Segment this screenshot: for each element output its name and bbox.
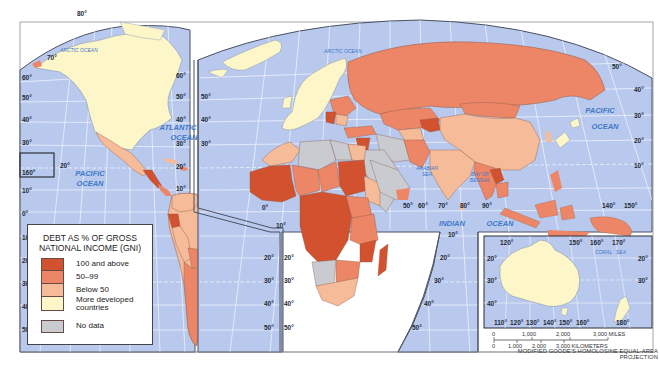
svg-text:40°: 40°: [176, 116, 186, 123]
legend-item-100-above: 100 and above: [41, 258, 129, 271]
svg-text:160°: 160°: [576, 319, 590, 326]
svg-text:90°: 90°: [482, 202, 492, 209]
australia-inset: [484, 236, 652, 328]
svg-text:20°: 20°: [60, 162, 70, 169]
ocean-label: OCEAN: [76, 179, 104, 188]
svg-text:20°: 20°: [440, 254, 450, 261]
svg-text:150°: 150°: [624, 202, 638, 209]
svg-text:INDIAN: INDIAN: [439, 219, 465, 228]
svg-text:20°: 20°: [284, 254, 294, 261]
svg-text:40°: 40°: [634, 86, 644, 93]
svg-text:PACIFIC: PACIFIC: [585, 106, 615, 115]
svg-text:30°: 30°: [22, 139, 32, 146]
svg-text:10°: 10°: [448, 231, 458, 238]
svg-text:40°: 40°: [487, 300, 497, 307]
svg-text:20°: 20°: [638, 255, 648, 262]
legend-item-more-developed: More developedcountries: [41, 297, 133, 311]
svg-text:20°: 20°: [634, 137, 644, 144]
svg-text:30°: 30°: [264, 277, 274, 284]
svg-text:50°: 50°: [403, 202, 413, 209]
svg-text:10°: 10°: [276, 222, 286, 229]
svg-text:120°: 120°: [510, 319, 524, 326]
svg-text:40°: 40°: [284, 300, 294, 307]
svg-text:50°: 50°: [284, 324, 294, 331]
svg-text:180°: 180°: [616, 319, 630, 326]
svg-text:30°: 30°: [487, 277, 497, 284]
svg-text:40°: 40°: [264, 300, 274, 307]
legend: DEBT AS % OF GROSS NATIONAL INCOME (GNI)…: [27, 224, 153, 345]
svg-text:20°: 20°: [176, 163, 186, 170]
svg-text:40°: 40°: [22, 116, 32, 123]
svg-text:70°: 70°: [438, 202, 448, 209]
svg-text:40°: 40°: [424, 300, 434, 307]
svg-text:CORAL: CORAL: [595, 249, 612, 255]
svg-text:20°: 20°: [264, 254, 274, 261]
svg-text:80°: 80°: [77, 10, 87, 17]
ocean-label: ARCTIC OCEAN: [59, 47, 98, 53]
svg-text:10°: 10°: [176, 185, 186, 192]
svg-text:50°: 50°: [22, 94, 32, 101]
svg-text:120°: 120°: [500, 239, 514, 246]
svg-text:20°: 20°: [487, 255, 497, 262]
svg-text:30°: 30°: [201, 140, 211, 147]
svg-text:10°: 10°: [634, 162, 644, 169]
svg-text:50°: 50°: [412, 324, 422, 331]
svg-text:150°: 150°: [569, 239, 583, 246]
svg-text:50°: 50°: [176, 93, 186, 100]
ocean-label: ARCTIC OCEAN: [323, 48, 362, 54]
legend-item-50-99: 50–99: [41, 271, 98, 284]
legend-swatch: [41, 284, 64, 297]
scale-miles-3000: 3,000 MILES: [593, 331, 625, 337]
svg-text:130°: 130°: [526, 319, 540, 326]
legend-swatch: [41, 258, 64, 271]
legend-swatch: [41, 271, 64, 284]
svg-text:80°: 80°: [460, 202, 470, 209]
svg-text:30°: 30°: [638, 277, 648, 284]
svg-text:30°: 30°: [434, 277, 444, 284]
svg-text:60°: 60°: [176, 72, 186, 79]
svg-text:30°: 30°: [176, 140, 186, 147]
svg-text:60°: 60°: [22, 74, 32, 81]
legend-swatch: [41, 320, 64, 333]
ocean-label: ATLANTIC: [159, 123, 198, 132]
svg-text:50°: 50°: [201, 93, 211, 100]
svg-text:160°: 160°: [22, 169, 36, 176]
scale-miles-1000: 1,000: [522, 331, 536, 337]
svg-text:30°: 30°: [634, 112, 644, 119]
svg-text:10°: 10°: [22, 187, 32, 194]
svg-text:140°: 140°: [543, 319, 557, 326]
svg-text:SEA: SEA: [422, 171, 433, 177]
svg-text:0°: 0°: [22, 210, 29, 217]
svg-text:OCEAN: OCEAN: [486, 219, 514, 228]
svg-text:40°: 40°: [201, 116, 211, 123]
svg-text:0°: 0°: [262, 204, 269, 211]
svg-text:150°: 150°: [559, 319, 573, 326]
svg-text:30°: 30°: [284, 277, 294, 284]
svg-text:BENGAL: BENGAL: [470, 177, 491, 183]
svg-text:OCEAN: OCEAN: [591, 122, 619, 131]
ocean-label: PACIFIC: [75, 169, 105, 178]
legend-swatch: [41, 297, 64, 311]
svg-text:140°: 140°: [602, 202, 616, 209]
svg-text:110°: 110°: [494, 319, 507, 326]
svg-text:170°: 170°: [612, 239, 626, 246]
svg-text:70°: 70°: [47, 54, 57, 61]
svg-text:50°: 50°: [264, 324, 274, 331]
scale-miles-2000: 2,000: [556, 331, 570, 337]
svg-text:160°: 160°: [590, 239, 604, 246]
legend-title: DEBT AS % OF GROSS NATIONAL INCOME (GNI): [28, 233, 152, 253]
svg-text:50°: 50°: [612, 63, 622, 70]
projection-label: MODIFIED GOODE'S HOMOLOSINE EQUAL-AREA P…: [482, 348, 658, 360]
svg-text:SEA: SEA: [616, 249, 627, 255]
svg-text:60°: 60°: [418, 202, 428, 209]
scale-miles-0: 0: [492, 331, 495, 337]
legend-item-no-data: No data: [41, 320, 104, 333]
